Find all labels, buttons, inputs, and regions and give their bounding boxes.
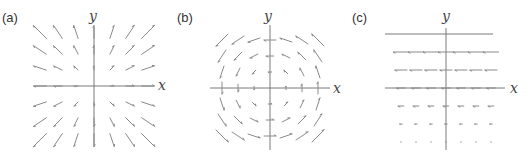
panel-c: (c) y x xyxy=(350,0,526,157)
vector-field-b xyxy=(175,0,351,157)
panel-b: (b) y x xyxy=(175,0,351,157)
vector-field-c xyxy=(350,0,526,157)
panel-a: (a) y x xyxy=(0,0,176,157)
vector-field-a xyxy=(0,0,176,157)
